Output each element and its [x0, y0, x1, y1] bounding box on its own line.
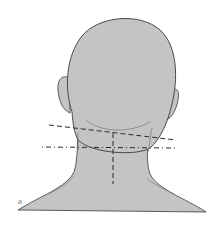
head-shape	[67, 19, 175, 153]
panel-label: a	[18, 196, 22, 206]
horizontal-dash-dot-line	[42, 147, 176, 148]
head-neck-diagram	[0, 0, 224, 226]
